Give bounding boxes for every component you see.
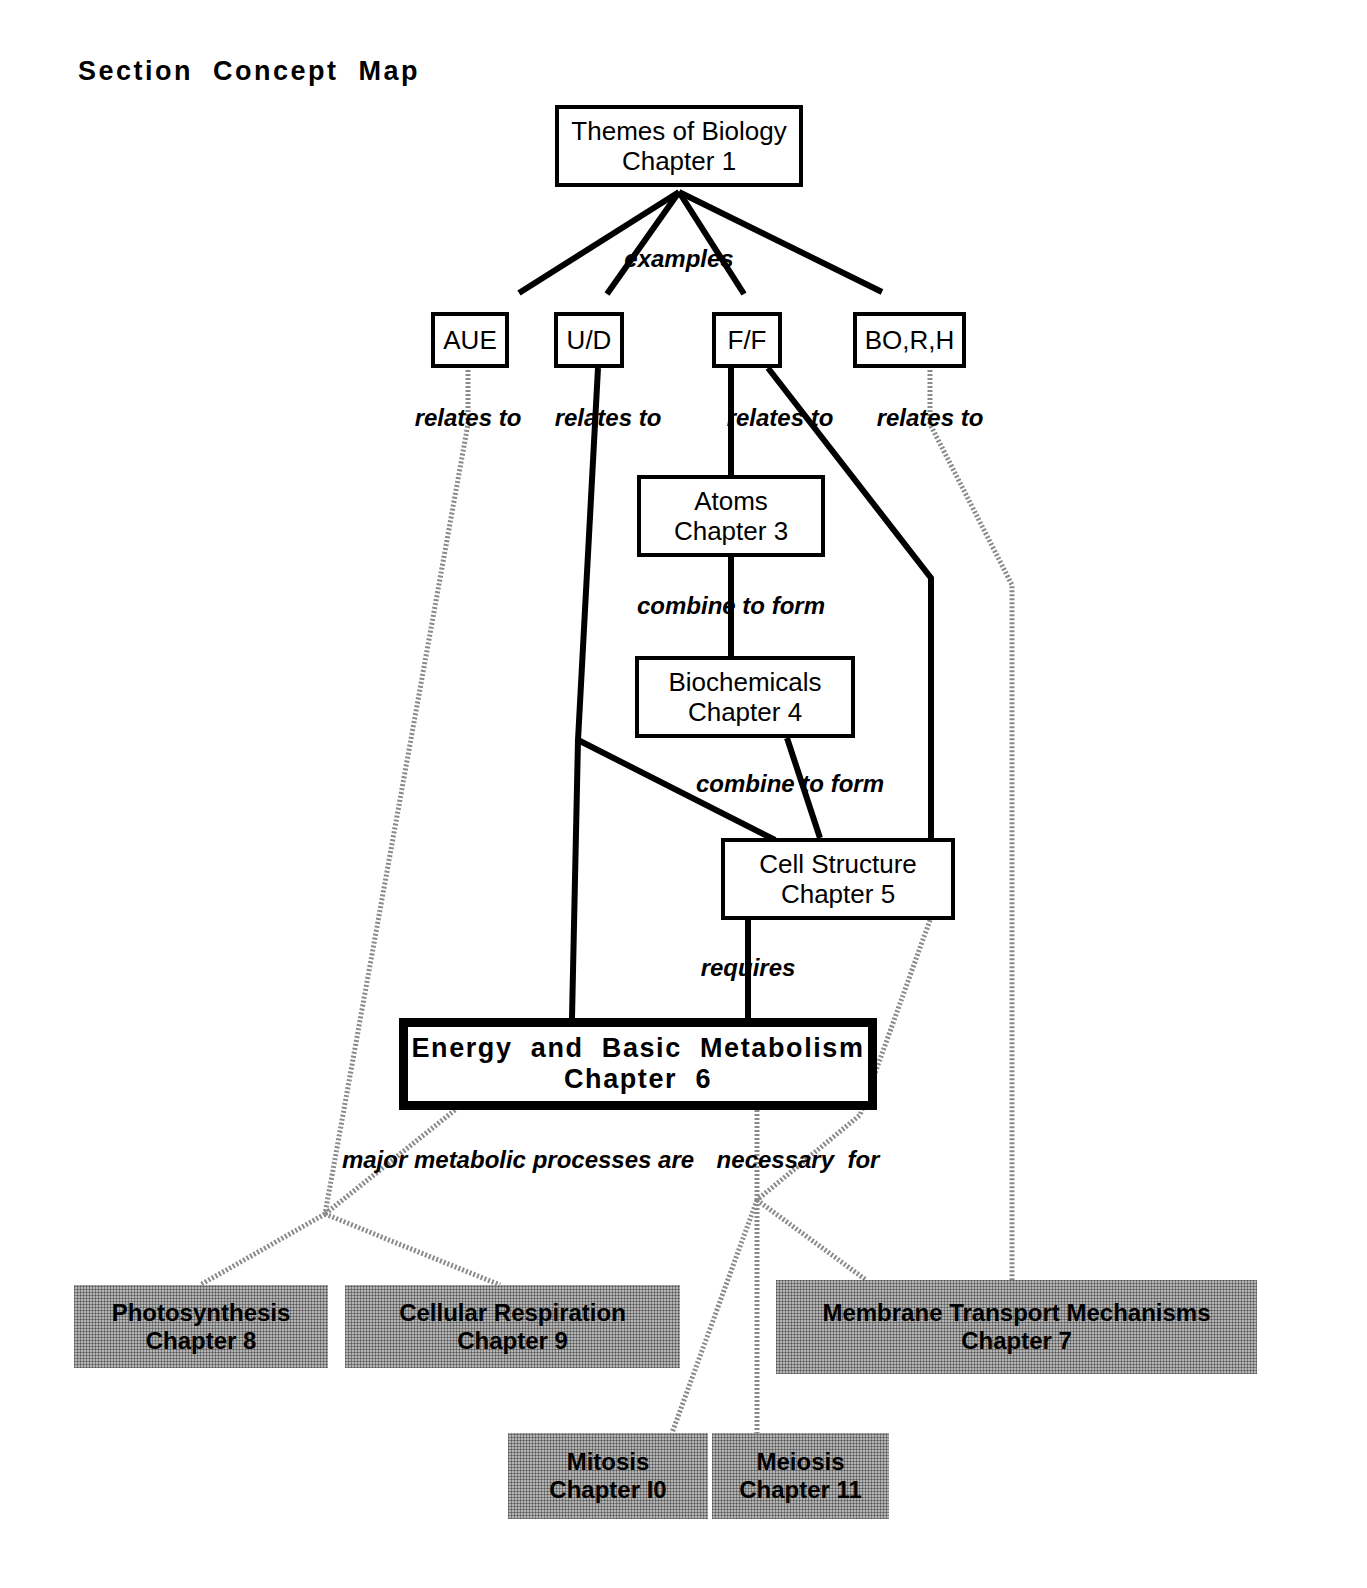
node-chapter: Chapter 5	[781, 879, 895, 909]
node-title: Cellular Respiration	[399, 1299, 626, 1327]
node-title: Cell Structure	[759, 849, 917, 879]
node-chapter: Chapter 3	[674, 516, 788, 546]
node-chapter: Chapter 7	[961, 1327, 1072, 1355]
edge-label-relates-to-aue: relates to	[415, 404, 522, 432]
page-title: Section Concept Map	[78, 56, 420, 87]
node-title: Atoms	[694, 486, 768, 516]
node-chapter: Chapter 1	[622, 146, 736, 176]
connector-themes-to-ff	[679, 192, 744, 294]
edge-label-combine-to-form-1: combine to form	[637, 592, 825, 620]
node-atoms[interactable]: AtomsChapter 3	[637, 475, 825, 557]
node-chapter: Chapter 11	[739, 1476, 862, 1504]
connector-necfor-to-mitosis	[672, 1200, 757, 1433]
edge-label-relates-to-borh: relates to	[877, 404, 984, 432]
node-chapter: Chapter 9	[457, 1327, 568, 1355]
node-title: Energy and Basic Metabolism	[411, 1033, 864, 1064]
concept-map-canvas: Section Concept Map Themes of BiologyCha…	[0, 0, 1367, 1588]
connector-necfor-to-membrane	[757, 1200, 866, 1280]
node-mitosis[interactable]: MitosisChapter I0	[508, 1433, 708, 1519]
connector-branch-to-resp	[325, 1214, 500, 1285]
node-meiosis[interactable]: MeiosisChapter 11	[712, 1433, 889, 1519]
connector-themes-to-borh	[679, 192, 882, 292]
node-themes-of-biology[interactable]: Themes of BiologyChapter 1	[555, 105, 803, 187]
node-cell-structure[interactable]: Cell StructureChapter 5	[721, 838, 955, 920]
node-title: Meiosis	[756, 1448, 844, 1476]
connector-ud-down	[572, 368, 598, 1018]
connector-ff-to-cell-right	[768, 368, 955, 900]
node-chapter: Chapter 4	[688, 697, 802, 727]
node-aue[interactable]: AUE	[431, 312, 509, 368]
node-f-f[interactable]: F/F	[712, 312, 782, 368]
edge-label-necessary-for: necessary for	[717, 1146, 880, 1174]
connector-themes-to-aue	[519, 192, 679, 293]
node-title: Biochemicals	[668, 667, 821, 697]
node-title: F/F	[728, 325, 767, 355]
node-cellular-respiration[interactable]: Cellular RespirationChapter 9	[345, 1285, 680, 1368]
node-biochemicals[interactable]: BiochemicalsChapter 4	[635, 656, 855, 738]
edge-label-relates-to-ud: relates to	[555, 404, 662, 432]
node-title: Mitosis	[567, 1448, 650, 1476]
edge-label-examples: examples	[624, 245, 733, 273]
node-title: Photosynthesis	[112, 1299, 291, 1327]
edge-label-relates-to-ff: relates to	[727, 404, 834, 432]
edge-label-combine-to-form-2: combine to form	[696, 770, 884, 798]
node-energy-and-basic-metabolism[interactable]: Energy and Basic MetabolismChapter 6	[399, 1018, 877, 1110]
node-title: Membrane Transport Mechanisms	[822, 1299, 1210, 1327]
node-membrane-transport-mechanisms[interactable]: Membrane Transport MechanismsChapter 7	[776, 1280, 1257, 1374]
node-title: BO,R,H	[865, 325, 955, 355]
node-title: Themes of Biology	[571, 116, 786, 146]
node-chapter: Chapter I0	[549, 1476, 666, 1504]
node-chapter: Chapter 6	[564, 1064, 712, 1095]
node-title: U/D	[567, 325, 612, 355]
connector-themes-to-ud	[607, 192, 679, 294]
node-bo-r-h[interactable]: BO,R,H	[853, 312, 966, 368]
node-photosynthesis[interactable]: PhotosynthesisChapter 8	[74, 1285, 328, 1368]
node-title: AUE	[443, 325, 496, 355]
edge-label-requires: requires	[701, 954, 796, 982]
connector-branch-to-photo	[200, 1214, 325, 1285]
node-chapter: Chapter 8	[146, 1327, 257, 1355]
connector-borh-to-membrane	[930, 370, 1012, 1280]
node-u-d[interactable]: U/D	[554, 312, 624, 368]
edge-label-major-processes: major metabolic processes are	[342, 1146, 694, 1174]
